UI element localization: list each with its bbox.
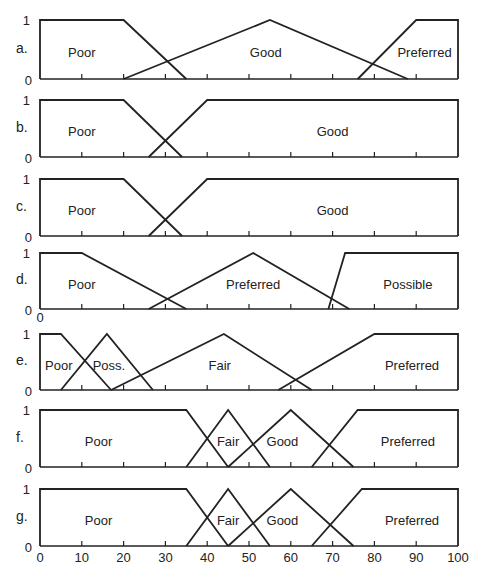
series-label: Good bbox=[250, 45, 282, 60]
y-tick-label-0: 0 bbox=[25, 73, 32, 88]
series-label: Good bbox=[317, 124, 349, 139]
panel-label: a. bbox=[16, 40, 28, 56]
x-tick-label: 30 bbox=[158, 550, 172, 565]
x-tick-label: 0 bbox=[36, 550, 43, 565]
membership-poor-line bbox=[40, 410, 228, 467]
y-tick-label-1: 1 bbox=[23, 246, 30, 261]
series-label: Poor bbox=[85, 513, 113, 528]
x-tick-label: 0 bbox=[36, 310, 43, 325]
y-tick-label-1: 1 bbox=[23, 172, 30, 187]
series-label: Preferred bbox=[397, 45, 451, 60]
x-tick-label: 20 bbox=[116, 550, 130, 565]
series-label: Good bbox=[267, 434, 299, 449]
membership-poor-line bbox=[40, 100, 182, 157]
panel-label: g. bbox=[16, 508, 28, 524]
series-label: Fair bbox=[217, 513, 240, 528]
x-tick-label: 60 bbox=[284, 550, 298, 565]
series-label: Poor bbox=[85, 434, 113, 449]
panel-label: c. bbox=[16, 198, 27, 214]
panel-label: d. bbox=[16, 271, 28, 287]
y-tick-label-0: 0 bbox=[25, 384, 32, 399]
panel-e: 10e.PoorPoss.FairPreferred bbox=[16, 327, 458, 399]
membership-poor-line bbox=[40, 20, 186, 79]
panel-f: 10f.PoorFairGoodPreferred bbox=[16, 403, 458, 476]
panel-a: 10a.PoorGoodPreferred bbox=[16, 13, 458, 88]
series-label: Good bbox=[317, 203, 349, 218]
y-tick-label-0: 0 bbox=[25, 230, 32, 245]
series-label: Poor bbox=[68, 45, 96, 60]
y-tick-label-0: 0 bbox=[25, 461, 32, 476]
x-tick-label: 90 bbox=[409, 550, 423, 565]
series-label: Preferred bbox=[381, 434, 435, 449]
panel-d: 10d.PoorPreferredPossible0 bbox=[16, 246, 458, 325]
membership-good-line bbox=[149, 179, 458, 236]
y-tick-label-0: 0 bbox=[25, 540, 32, 555]
series-label: Poor bbox=[45, 358, 73, 373]
x-tick-label: 100 bbox=[447, 550, 469, 565]
x-tick-label: 80 bbox=[367, 550, 381, 565]
series-label: Poss. bbox=[93, 358, 126, 373]
y-tick-label-1: 1 bbox=[23, 13, 30, 28]
series-label: Possible bbox=[383, 277, 432, 292]
series-label: Preferred bbox=[226, 277, 280, 292]
membership-good-line bbox=[149, 100, 458, 157]
series-label: Preferred bbox=[385, 513, 439, 528]
panel-b: 10b.PoorGood bbox=[16, 93, 458, 166]
y-tick-label-1: 1 bbox=[23, 403, 30, 418]
membership-poor-line bbox=[40, 489, 228, 546]
series-label: Poor bbox=[68, 124, 96, 139]
y-tick-label-1: 1 bbox=[23, 327, 30, 342]
fuzzy-membership-chart: 10a.PoorGoodPreferred10b.PoorGood10c.Poo… bbox=[0, 0, 484, 584]
x-tick-label: 70 bbox=[325, 550, 339, 565]
x-tick-label: 40 bbox=[200, 550, 214, 565]
panel-g: 10g.PoorFairGoodPreferred010203040506070… bbox=[16, 482, 469, 565]
panel-label: b. bbox=[16, 119, 28, 135]
panel-label: f. bbox=[16, 429, 24, 445]
series-label: Good bbox=[267, 513, 299, 528]
y-tick-label-1: 1 bbox=[23, 93, 30, 108]
series-label: Fair bbox=[209, 358, 232, 373]
panel-label: e. bbox=[16, 352, 28, 368]
series-label: Preferred bbox=[385, 358, 439, 373]
y-tick-label-0: 0 bbox=[25, 151, 32, 166]
panel-c: 10c.PoorGood bbox=[16, 172, 458, 245]
y-tick-label-1: 1 bbox=[23, 482, 30, 497]
series-label: Fair bbox=[217, 434, 240, 449]
membership-poor-line bbox=[40, 179, 182, 236]
series-label: Poor bbox=[68, 277, 96, 292]
y-tick-label-0: 0 bbox=[25, 303, 32, 318]
x-tick-label: 50 bbox=[242, 550, 256, 565]
x-tick-label: 10 bbox=[75, 550, 89, 565]
series-label: Poor bbox=[68, 203, 96, 218]
